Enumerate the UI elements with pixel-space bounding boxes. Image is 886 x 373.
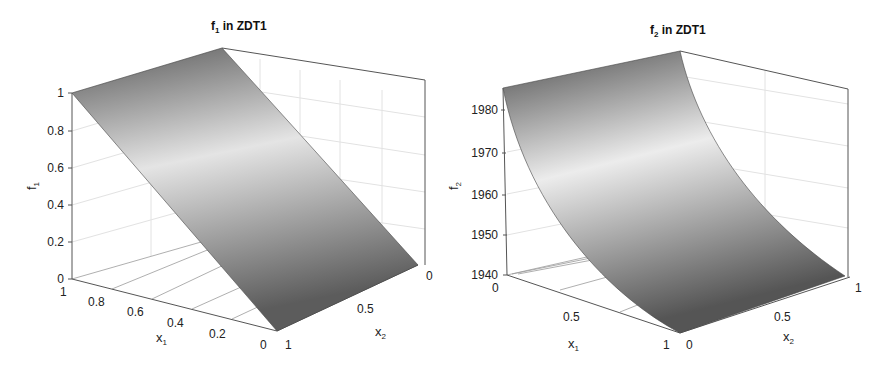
svg-text:0.6: 0.6	[47, 161, 64, 175]
svg-text:1950: 1950	[471, 228, 498, 242]
svg-text:0.2: 0.2	[209, 327, 226, 341]
chart-f2: f2 in ZDT1 1980 1970 1960 1950 1940 f2 0…	[446, 23, 862, 353]
svg-text:1970: 1970	[471, 146, 498, 160]
chart-title: f1 in ZDT1	[211, 19, 267, 35]
svg-text:0: 0	[57, 272, 64, 286]
svg-text:1: 1	[285, 338, 292, 352]
x-axis-label: x1	[568, 336, 580, 353]
svg-text:1940: 1940	[471, 268, 498, 282]
svg-text:0.2: 0.2	[47, 235, 64, 249]
svg-text:0.5: 0.5	[774, 310, 791, 324]
svg-text:1: 1	[663, 338, 670, 352]
svg-text:0: 0	[260, 338, 267, 352]
svg-text:0.5: 0.5	[357, 302, 374, 316]
svg-text:1: 1	[60, 285, 67, 299]
figure: f1 in ZDT1 1 0.8 0.6 0.4 0.2 0 f1 1 0.8 …	[0, 0, 886, 373]
z-axis-tick-labels: 1980 1970 1960 1950 1940	[471, 103, 498, 282]
z-axis-label: f1	[24, 181, 41, 190]
z-axis-tick-labels: 1 0.8 0.6 0.4 0.2 0	[47, 86, 64, 286]
z-axis-ticks	[68, 93, 72, 279]
chart-f1: f1 in ZDT1 1 0.8 0.6 0.4 0.2 0 f1 1 0.8 …	[24, 19, 433, 352]
svg-text:1960: 1960	[471, 188, 498, 202]
x-axis-label: x1	[156, 330, 168, 347]
svg-text:0.4: 0.4	[47, 198, 64, 212]
chart-title: f2 in ZDT1	[650, 23, 706, 39]
svg-text:1980: 1980	[471, 103, 498, 117]
svg-text:0.6: 0.6	[127, 305, 144, 319]
svg-text:1: 1	[855, 281, 862, 295]
svg-text:1: 1	[57, 86, 64, 100]
svg-text:0.4: 0.4	[167, 316, 184, 330]
y-axis-label: x2	[783, 329, 795, 346]
z-axis-label: f2	[446, 181, 463, 190]
svg-text:0: 0	[686, 338, 693, 352]
svg-text:0: 0	[426, 269, 433, 283]
svg-text:0.5: 0.5	[563, 310, 580, 324]
surface-f1	[72, 48, 418, 331]
svg-text:0.8: 0.8	[47, 124, 64, 138]
y-axis-label: x2	[375, 324, 387, 341]
svg-text:0.8: 0.8	[88, 295, 105, 309]
svg-text:0: 0	[492, 281, 499, 295]
